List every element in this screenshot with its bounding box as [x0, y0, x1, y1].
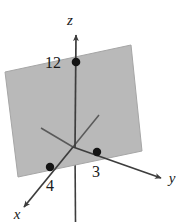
- z-axis-upper-segment: [75, 35, 76, 148]
- plane-figure-container: 12 3 4 z y x: [0, 0, 185, 222]
- z-intercept-label: 12: [45, 54, 61, 71]
- x-intercept-dot: [46, 163, 54, 171]
- coordinate-plane-svg: 12 3 4 z y x: [0, 0, 185, 222]
- y-intercept-label: 3: [92, 163, 100, 180]
- z-axis-label: z: [66, 12, 73, 28]
- y-axis-label: y: [167, 170, 176, 186]
- y-intercept-dot: [93, 148, 101, 156]
- x-intercept-label: 4: [46, 177, 54, 194]
- z-intercept-dot: [72, 58, 81, 67]
- x-axis-label: x: [13, 206, 21, 222]
